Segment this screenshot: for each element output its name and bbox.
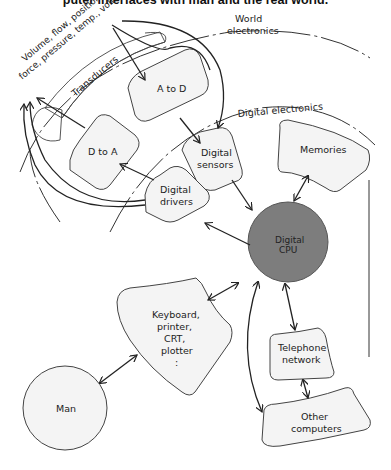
arrow-cpu-peripherals <box>208 283 238 300</box>
other-computers-label-1: Other <box>301 411 328 422</box>
arrow-man-peripherals <box>100 355 137 383</box>
digital-sensors-label-2: sensors <box>197 159 233 170</box>
peripherals-label-4: plotter <box>161 345 193 356</box>
other-computers-label-2: computers <box>291 423 342 434</box>
quantities-line1: Volume, flow, position, <box>20 0 105 64</box>
peripherals-label-3: CRT, <box>164 333 185 344</box>
digital-drivers-label-1: Digital <box>160 184 191 195</box>
arrow-telephone-other <box>303 380 308 398</box>
cpu-label-2: CPU <box>279 245 297 255</box>
arrow-sensors-to-cpu <box>232 180 252 210</box>
memories-node <box>278 120 370 192</box>
arrow-cpu-telephone <box>285 284 295 330</box>
a-to-d-label: A to D <box>157 83 186 94</box>
arrow-memories-cpu <box>294 176 308 201</box>
computer-interfaces-diagram: World electronics Digital electronics Tr… <box>0 0 391 470</box>
telephone-label-1: Telephone <box>277 342 326 353</box>
electronics-label: electronics <box>227 25 279 36</box>
cpu-label-1: Digital <box>275 235 304 245</box>
peripherals-label-1: Keyboard, <box>152 309 200 320</box>
digital-sensors-label-1: Digital <box>201 147 232 158</box>
peripherals-label-2: printer, <box>157 321 192 332</box>
digital-electronics-label: Digital electronics <box>237 101 323 119</box>
arrow-cpu-other-computers <box>247 282 262 412</box>
peripherals-ellipsis: : <box>175 357 178 368</box>
telephone-label-2: network <box>282 354 321 365</box>
memories-label: Memories <box>300 144 346 155</box>
arrow-drivers-to-dtoa <box>120 164 154 180</box>
world-label: World <box>235 13 262 24</box>
man-label: Man <box>56 403 76 414</box>
d-to-a-label: D to A <box>88 146 118 157</box>
digital-drivers-label-2: drivers <box>160 196 193 207</box>
arrow-cpu-to-drivers <box>205 223 250 245</box>
